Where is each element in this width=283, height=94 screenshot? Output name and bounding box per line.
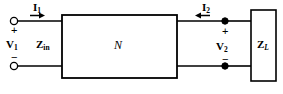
label-network: N — [114, 39, 122, 51]
label-current-1: I1 — [33, 2, 41, 15]
label-voltage-2: V2 — [216, 41, 228, 54]
polarity-minus-left: − — [11, 52, 17, 63]
polarity-minus-right: − — [222, 54, 228, 65]
polarity-plus-left: + — [11, 25, 17, 36]
label-current-2: I2 — [202, 2, 210, 15]
label-z-in: Zin — [36, 39, 50, 52]
label-z-load: ZL — [257, 39, 269, 52]
polarity-plus-right: + — [222, 26, 228, 37]
label-voltage-1: V1 — [6, 39, 18, 52]
circuit-diagram: I1 I2 + − V1 Zin N + V2 − ZL — [0, 0, 283, 94]
terminal-right-top — [222, 18, 228, 24]
terminal-left-bottom — [10, 62, 17, 69]
